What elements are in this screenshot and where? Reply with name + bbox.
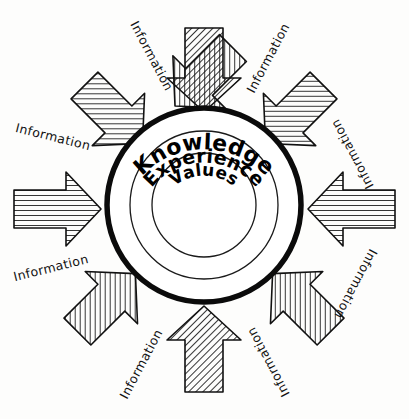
arrow-label-south: Information [243,325,292,400]
arrow-label-southeast: Information [331,247,380,322]
arrow-west [14,172,101,246]
arrow-label-southwest: Information [116,326,165,401]
arrow-label-northwest: Information [14,120,92,153]
arrow-label-northeast: Information [243,20,292,95]
diagram-canvas: Knowledge Experience Values Information … [0,0,409,419]
arrow-east [308,172,395,246]
arrow-label-west: Information [12,251,90,284]
arrow-south [167,306,241,392]
arrow-label-north: Information [127,18,176,93]
knowledge-information-diagram: Knowledge Experience Values Information … [0,0,409,419]
